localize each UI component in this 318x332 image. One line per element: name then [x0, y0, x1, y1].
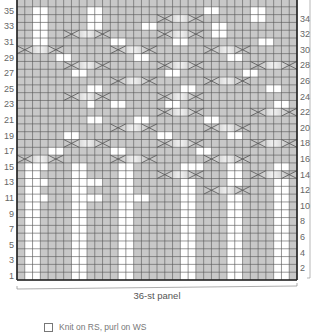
- row-label-left: 1: [9, 271, 14, 281]
- row-label-right: 16: [300, 154, 310, 164]
- row-label-left: 31: [4, 37, 14, 47]
- row-label-right: 12: [300, 185, 310, 195]
- row-label-right: 14: [300, 170, 310, 180]
- row-label-right: 20: [300, 123, 310, 133]
- row-label-right: 24: [300, 92, 310, 102]
- row-label-left: 5: [9, 240, 14, 250]
- row-label-right: 30: [300, 45, 310, 55]
- row-label-right: 26: [300, 76, 310, 86]
- row-label-left: 33: [4, 21, 14, 31]
- legend-label: Knit on RS, purl on WS: [59, 322, 146, 332]
- row-label-left: 7: [9, 224, 14, 234]
- row-label-right: 18: [300, 138, 310, 148]
- white-square-icon: [44, 323, 53, 332]
- row-label-left: 9: [9, 209, 14, 219]
- row-label-left: 35: [4, 6, 14, 16]
- row-label-left: 19: [4, 131, 14, 141]
- row-label-right: 4: [300, 248, 305, 258]
- row-label-left: 23: [4, 99, 14, 109]
- row-label-right: 2: [300, 263, 305, 273]
- row-label-left: 15: [4, 162, 14, 172]
- row-label-right: 34: [300, 14, 310, 24]
- row-label-left: 27: [4, 68, 14, 78]
- row-label-right: 32: [300, 29, 310, 39]
- row-label-right: 10: [300, 201, 310, 211]
- row-label-left: 29: [4, 53, 14, 63]
- row-label-right: 28: [300, 60, 310, 70]
- row-label-left: 25: [4, 84, 14, 94]
- row-label-right: 22: [300, 107, 310, 117]
- row-label-left: 13: [4, 177, 14, 187]
- row-label-left: 17: [4, 146, 14, 156]
- row-label-right: 6: [300, 232, 305, 242]
- row-label-left: 21: [4, 115, 14, 125]
- row-label-left: 11: [5, 193, 14, 203]
- panel-label: 36-st panel: [17, 290, 297, 301]
- row-label-left: 3: [9, 255, 14, 265]
- cable-chart-grid: [0, 0, 318, 300]
- row-label-right: 8: [300, 216, 305, 226]
- legend: Knit on RS, purl on WS: [44, 322, 146, 332]
